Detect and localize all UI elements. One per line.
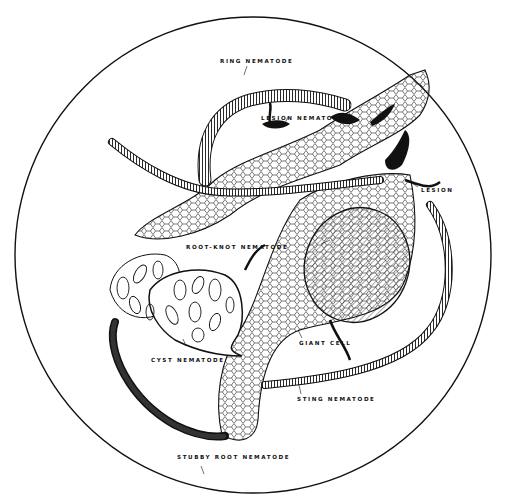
label-root-knot-nematode: ROOT-KNOT NEMATODE — [186, 245, 288, 251]
root-hair — [269, 103, 270, 125]
label-sting-nematode: STING NEMATODE — [297, 397, 376, 403]
label-lesion: LESION — [421, 188, 454, 194]
label-giant-cell: GIANT CELL — [299, 341, 352, 347]
label-ring-nematode: RING NEMATODE — [220, 59, 293, 65]
nematode-diagram: RING NEMATODE LESION NEMATODE LESION ROO… — [0, 0, 506, 499]
label-stubby-root-nematode: STUBBY ROOT NEMATODE — [177, 455, 290, 461]
label-cyst-nematode: CYST NEMATODE — [151, 358, 225, 364]
label-lesion-nematode: LESION NEMATODE — [261, 116, 345, 122]
cyst-body — [149, 270, 242, 356]
